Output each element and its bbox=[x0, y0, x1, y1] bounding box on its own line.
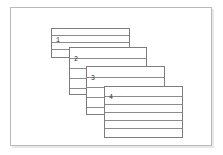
layer-number-2: 2 bbox=[74, 57, 78, 64]
layer-number-1: 1 bbox=[56, 38, 60, 45]
ply-line bbox=[105, 128, 182, 129]
ply-line bbox=[105, 104, 182, 105]
ply-line bbox=[105, 120, 182, 121]
layer-number-4: 4 bbox=[109, 95, 113, 102]
layer-number-3: 3 bbox=[91, 76, 95, 83]
ply-line bbox=[52, 42, 129, 43]
layer-block-4 bbox=[104, 86, 183, 138]
figure-panel: (a) Layer# Material# Theta 0 0 0 0 1 1 2… bbox=[0, 0, 223, 155]
ply-line bbox=[70, 58, 146, 59]
ply-line bbox=[52, 35, 129, 36]
ply-line bbox=[105, 112, 182, 113]
ply-line bbox=[105, 96, 182, 97]
ply-line bbox=[87, 77, 164, 78]
